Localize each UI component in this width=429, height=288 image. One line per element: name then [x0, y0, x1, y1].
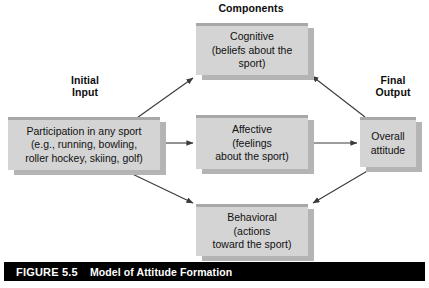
node-face: Behavioral (actions toward the sport): [196, 204, 308, 256]
node-participation-label: Participation in any sport (e.g., runnin…: [22, 125, 146, 166]
label-initial-input: Initial Input: [40, 74, 130, 98]
label-final-output: Final Output: [358, 74, 428, 98]
node-face: Overall attitude: [360, 117, 416, 167]
node-behavioral-label: Behavioral (actions toward the sport): [210, 211, 295, 252]
node-participation: Participation in any sport (e.g., runnin…: [8, 117, 160, 170]
node-cognitive: Cognitive (beliefs about the sport): [196, 23, 308, 75]
node-face: Affective (feelings about the sport): [196, 115, 308, 169]
figure-caption-bar: FIGURE 5.5 Model of Attitude Formation: [4, 262, 425, 281]
node-face: Participation in any sport (e.g., runnin…: [8, 117, 160, 170]
figure-number: FIGURE 5.5: [16, 266, 78, 278]
node-cognitive-label: Cognitive (beliefs about the sport): [209, 30, 296, 71]
node-overall-attitude-label: Overall attitude: [368, 130, 408, 157]
node-behavioral: Behavioral (actions toward the sport): [196, 204, 308, 256]
arrow-participation-to-cognitive: [134, 78, 193, 120]
arrow-overall-to-behavioral: [313, 170, 369, 203]
figure-caption-inner: FIGURE 5.5 Model of Attitude Formation: [4, 266, 232, 278]
node-face: Cognitive (beliefs about the sport): [196, 23, 308, 75]
label-components: Components: [196, 2, 306, 14]
figure-diagram: Components Initial Input Final Output Pa…: [0, 0, 429, 288]
node-affective: Affective (feelings about the sport): [196, 115, 308, 169]
node-overall-attitude: Overall attitude: [360, 117, 416, 167]
figure-title: Model of Attitude Formation: [90, 266, 232, 278]
node-affective-label: Affective (feelings about the sport): [212, 123, 292, 164]
